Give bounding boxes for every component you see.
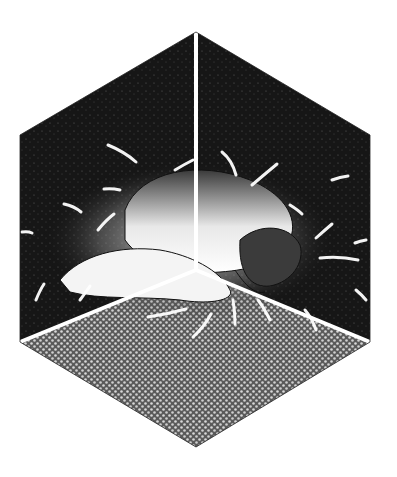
- cube-corner-artwork: [0, 0, 397, 477]
- illustration: [0, 0, 397, 477]
